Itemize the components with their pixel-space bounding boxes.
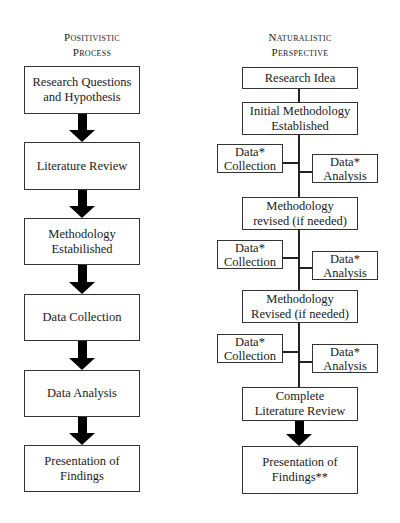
- step-data-collection: Data Collection: [24, 294, 140, 341]
- step-label: Collection: [224, 159, 276, 173]
- step-label: Analysis: [323, 266, 367, 280]
- step-label: Findings: [44, 469, 119, 484]
- title-line: Naturalistic: [240, 30, 360, 45]
- step-label: and Hypothesis: [33, 90, 132, 105]
- down-arrow-icon: [69, 341, 95, 370]
- title-line: Process: [32, 45, 152, 60]
- step-label: Methodology: [253, 199, 347, 214]
- step-label: Complete: [255, 389, 346, 404]
- data-analysis-3: Data*Analysis: [312, 344, 378, 373]
- step-label: Revised (if needed): [251, 307, 349, 322]
- step-label: Literature Review: [37, 159, 128, 174]
- step-presentation-findings-naturalistic: Presentation ofFindings**: [242, 446, 358, 494]
- step-literature-review: Literature Review: [24, 142, 140, 190]
- step-label: Research Idea: [265, 71, 335, 86]
- data-collection-1: Data*Collection: [217, 144, 283, 173]
- step-label: Data*: [224, 335, 276, 349]
- step-label: Collection: [224, 349, 276, 363]
- step-methodology-established: MethodologyEstabilished: [24, 218, 140, 265]
- step-label: Methodology: [251, 292, 349, 307]
- step-label: Analysis: [323, 169, 367, 183]
- connector-line: [299, 267, 312, 269]
- step-methodology-revised-2: MethodologyRevised (if needed): [242, 290, 358, 323]
- positivistic-title: Positivistic Process: [32, 30, 152, 60]
- step-label: Research Questions: [33, 75, 132, 90]
- step-label: Data*: [323, 345, 367, 359]
- title-line: Positivistic: [32, 30, 152, 45]
- step-label: Collection: [224, 255, 276, 269]
- step-label: Data*: [323, 155, 367, 169]
- down-arrow-icon: [69, 190, 95, 218]
- step-data-analysis: Data Analysis: [24, 370, 140, 417]
- data-analysis-1: Data*Analysis: [312, 154, 378, 183]
- down-arrow-icon: [69, 114, 95, 142]
- step-label: Estabilished: [48, 242, 115, 257]
- step-label: Data Collection: [43, 310, 122, 325]
- step-label: Analysis: [323, 359, 367, 373]
- connector-line: [299, 171, 312, 173]
- data-analysis-2: Data*Analysis: [312, 251, 378, 280]
- step-label: Data Analysis: [47, 386, 117, 401]
- step-label: Literature Review: [255, 404, 346, 419]
- connector-line: [282, 257, 299, 259]
- step-label: Data*: [224, 145, 276, 159]
- step-label: Data*: [224, 241, 276, 255]
- step-research-questions: Research Questionsand Hypothesis: [24, 66, 140, 114]
- connector-line: [282, 351, 299, 353]
- down-arrow-icon: [69, 265, 95, 294]
- step-complete-literature-review: CompleteLiterature Review: [242, 387, 358, 421]
- step-label: Data*: [323, 252, 367, 266]
- title-line: Perspective: [240, 45, 360, 60]
- step-label: Findings**: [262, 470, 337, 485]
- step-presentation-findings: Presentation ofFindings: [24, 445, 140, 492]
- connector-line: [299, 361, 312, 363]
- connector-line: [282, 162, 299, 164]
- data-collection-3: Data*Collection: [217, 334, 283, 363]
- naturalistic-title: Naturalistic Perspective: [240, 30, 360, 60]
- down-arrow-icon: [286, 421, 312, 446]
- step-label: Methodology: [48, 227, 115, 242]
- down-arrow-icon: [69, 417, 95, 445]
- step-label: Presentation of: [44, 454, 119, 469]
- step-label: revised (if needed): [253, 214, 347, 229]
- step-label: Established: [250, 119, 350, 134]
- step-label: Initial Methodology: [250, 104, 350, 119]
- step-initial-methodology: Initial MethodologyEstablished: [242, 102, 358, 135]
- data-collection-2: Data*Collection: [217, 240, 283, 269]
- step-research-idea: Research Idea: [242, 67, 358, 89]
- step-methodology-revised-1: Methodologyrevised (if needed): [242, 197, 358, 230]
- step-label: Presentation of: [262, 455, 337, 470]
